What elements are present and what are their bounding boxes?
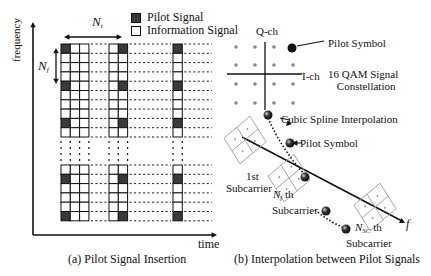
first-subcarrier-constellation xyxy=(224,116,266,164)
info-cell xyxy=(80,109,89,118)
pilot-symbol-label-2: Pilot Symbol xyxy=(300,137,358,149)
info-cell xyxy=(109,109,118,118)
nf-b-suffix: th xyxy=(282,188,293,200)
info-cell xyxy=(61,109,70,118)
caption-b: (b) Interpolation between Pilot Signals xyxy=(234,253,420,265)
frequency-axis-arrowhead-icon xyxy=(30,22,35,27)
info-cell xyxy=(173,63,182,72)
first-subcarrier-line1: 1st xyxy=(239,170,259,182)
pilot-symbol-leader xyxy=(297,41,324,46)
x-axis-label-time: time xyxy=(198,238,219,250)
info-cell xyxy=(80,91,89,100)
info-cell xyxy=(109,44,118,53)
nf-arrow-up-icon xyxy=(53,48,58,53)
pilot-cell xyxy=(61,44,70,53)
info-cell xyxy=(70,128,79,137)
qam-point xyxy=(272,101,276,105)
info-cell xyxy=(118,128,127,137)
info-cell xyxy=(80,165,89,174)
qam-point xyxy=(234,45,238,49)
info-cell xyxy=(70,202,79,211)
pilot-cell xyxy=(118,118,127,127)
info-cell xyxy=(70,109,79,118)
info-cell xyxy=(80,44,89,53)
nf-subcarrier-line2: Subcarrier xyxy=(272,204,318,216)
info-cell xyxy=(118,184,127,193)
info-cell xyxy=(80,184,89,193)
info-cell xyxy=(70,184,79,193)
legend-info-swatch xyxy=(131,26,141,36)
pilot-sphere-icon xyxy=(322,207,331,216)
info-cell xyxy=(70,100,79,109)
info-cell xyxy=(80,100,89,109)
info-cell xyxy=(109,184,118,193)
spline-label: Cubic Spline Interpolation xyxy=(281,113,398,125)
info-cell xyxy=(80,53,89,62)
pilot-symbol-dot xyxy=(288,44,297,53)
y-axis-label-frequency: frequency xyxy=(10,10,22,70)
nsc-subcarrier-line2: Subcarrier xyxy=(346,237,392,249)
qam-point xyxy=(291,101,295,105)
qam-point xyxy=(272,82,276,86)
info-cell xyxy=(70,174,79,183)
qam-point xyxy=(291,63,295,67)
info-cell xyxy=(70,81,79,90)
info-cell xyxy=(80,63,89,72)
info-cell xyxy=(80,118,89,127)
info-cell xyxy=(61,165,70,174)
info-cell xyxy=(109,53,118,62)
pilot-cell xyxy=(118,81,127,90)
qam-point xyxy=(253,101,257,105)
nf-subcarrier-label: Nf th xyxy=(273,188,294,204)
pilot-cell xyxy=(173,212,182,221)
info-cell xyxy=(70,165,79,174)
info-cell xyxy=(109,212,118,221)
qam-point xyxy=(253,82,257,86)
info-cell xyxy=(80,128,89,137)
qam-point xyxy=(234,63,238,67)
pilot-sphere-icon xyxy=(342,225,351,234)
info-cell xyxy=(61,184,70,193)
info-cell xyxy=(80,212,89,221)
qam-point xyxy=(253,63,257,67)
nt-arrow-left-icon xyxy=(64,34,69,39)
info-cell xyxy=(118,53,127,62)
info-cell xyxy=(80,193,89,202)
constellation-label-line2: Constellation xyxy=(331,80,396,92)
info-cell xyxy=(61,193,70,202)
qam-point xyxy=(272,63,276,67)
info-cell xyxy=(173,193,182,202)
info-cell xyxy=(70,72,79,81)
pilot-sphere-icon xyxy=(264,111,273,120)
nsc-subscript: SC xyxy=(362,227,370,235)
pilot-cell xyxy=(173,174,182,183)
info-cell xyxy=(109,128,118,137)
info-cell xyxy=(173,202,182,211)
pilot-cell xyxy=(61,212,70,221)
legend-pilot-label: Pilot Signal xyxy=(147,11,203,23)
info-cell xyxy=(109,100,118,109)
pilot-cell xyxy=(118,174,127,183)
nf-label: Nf xyxy=(38,60,49,76)
pilot-symbol-label: Pilot Symbol xyxy=(328,37,386,49)
caption-a: (a) Pilot Signal Insertion xyxy=(68,253,186,265)
info-cell xyxy=(70,44,79,53)
info-cell xyxy=(173,109,182,118)
info-cell xyxy=(173,91,182,100)
info-cell xyxy=(61,63,70,72)
info-cell xyxy=(118,72,127,81)
info-cell xyxy=(61,128,70,137)
info-cell xyxy=(118,91,127,100)
info-cell xyxy=(80,72,89,81)
info-cell xyxy=(173,128,182,137)
info-cell xyxy=(70,63,79,72)
pilot-cell xyxy=(61,81,70,90)
info-cell xyxy=(118,100,127,109)
info-cell xyxy=(61,202,70,211)
info-cell xyxy=(61,91,70,100)
info-cell xyxy=(109,202,118,211)
info-cell xyxy=(118,63,127,72)
info-cell xyxy=(109,165,118,174)
nsc-suffix: th xyxy=(371,221,382,233)
legend-pilot-swatch xyxy=(131,13,141,23)
